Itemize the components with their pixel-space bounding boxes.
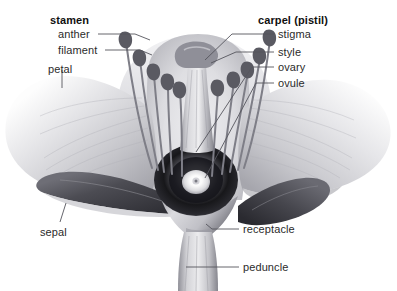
label-filament: filament bbox=[58, 44, 97, 56]
peduncle-shape bbox=[178, 232, 218, 291]
peduncle bbox=[178, 232, 218, 291]
label-style: style bbox=[278, 46, 301, 58]
ovule-core bbox=[195, 180, 198, 183]
label-anther: anther bbox=[58, 28, 90, 40]
anther bbox=[119, 31, 133, 48]
label-receptacle: receptacle bbox=[243, 223, 295, 235]
stigma bbox=[175, 42, 218, 68]
label-ovary: ovary bbox=[278, 61, 305, 73]
label-carpel: carpel (pistil) bbox=[258, 14, 328, 26]
label-stigma: stigma bbox=[278, 28, 311, 40]
label-ovule: ovule bbox=[278, 77, 305, 89]
label-peduncle: peduncle bbox=[243, 261, 288, 273]
label-sepal: sepal bbox=[40, 226, 67, 238]
label-petal: petal bbox=[48, 63, 72, 75]
anther bbox=[263, 29, 277, 46]
stigma-head bbox=[175, 42, 218, 68]
flower-anatomy-diagram: stamen anther filament petal sepal carpe… bbox=[0, 0, 397, 291]
label-stamen: stamen bbox=[50, 14, 89, 26]
